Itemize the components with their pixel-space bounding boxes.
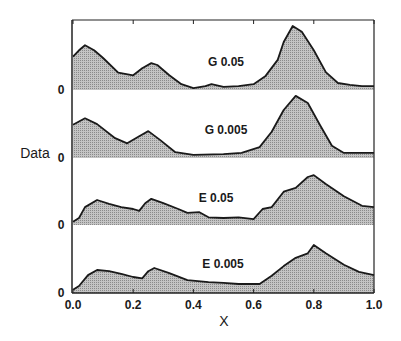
panel-label: E 0.05 bbox=[199, 191, 234, 205]
zero-label: 0 bbox=[58, 151, 65, 165]
y-axis-label: Data bbox=[20, 145, 50, 161]
zero-label: 0 bbox=[58, 286, 65, 300]
baseline-zero-labels: 0000 bbox=[58, 83, 65, 300]
x-tick-label: 1.0 bbox=[366, 298, 383, 312]
x-tick-label: 0.2 bbox=[125, 298, 142, 312]
x-tick-label: 0.6 bbox=[245, 298, 262, 312]
zero-label: 0 bbox=[58, 83, 65, 97]
panel-label: G 0.05 bbox=[208, 55, 244, 69]
x-tick-label: 0.4 bbox=[185, 298, 202, 312]
x-tick-label: 0.0 bbox=[65, 298, 82, 312]
x-axis-label: X bbox=[219, 313, 229, 329]
stacked-area-chart: 0.00.20.40.60.81.0 X Data 0000 G 0.05G 0… bbox=[0, 0, 401, 341]
panel-label: E 0.005 bbox=[202, 257, 244, 271]
x-tick-labels: 0.00.20.40.60.81.0 bbox=[65, 298, 383, 312]
zero-label: 0 bbox=[58, 218, 65, 232]
panel-label: G 0.005 bbox=[205, 123, 248, 137]
x-tick-label: 0.8 bbox=[305, 298, 322, 312]
